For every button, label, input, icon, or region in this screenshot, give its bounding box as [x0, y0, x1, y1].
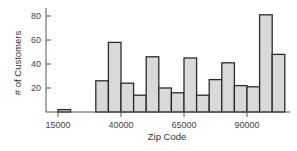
x-axis-ticks: 15000400006500090000: [45, 112, 259, 130]
histogram-bar: [108, 42, 121, 112]
histogram-bar: [234, 86, 247, 112]
histogram-bar: [197, 95, 210, 112]
y-tick-label: 40: [31, 59, 41, 69]
histogram-bar: [134, 95, 147, 112]
histogram-bar: [184, 58, 197, 112]
y-axis-title: # of Customers: [12, 31, 23, 96]
histogram-bar: [222, 63, 235, 112]
x-axis-title: Zip Code: [148, 131, 187, 142]
histogram-bar: [146, 57, 159, 112]
y-tick-label: 80: [31, 11, 41, 21]
bars-group: [58, 15, 285, 112]
x-tick-label: 15000: [45, 120, 70, 130]
y-tick-label: 20: [31, 83, 41, 93]
x-tick-label: 65000: [171, 120, 196, 130]
histogram-bar: [96, 81, 109, 112]
histogram-bar: [260, 15, 273, 112]
x-tick-label: 40000: [108, 120, 133, 130]
histogram-bar: [121, 83, 134, 112]
histogram-bar: [159, 88, 172, 112]
y-axis-ticks: 20406080: [31, 11, 51, 93]
histogram-bar: [272, 54, 285, 112]
histogram-bar: [171, 93, 184, 112]
x-tick-label: 90000: [234, 120, 259, 130]
histogram-bar: [247, 87, 260, 112]
histogram-bar: [209, 80, 222, 112]
y-tick-label: 60: [31, 35, 41, 45]
histogram-chart: 20406080 15000400006500090000 Zip Code #…: [0, 0, 297, 151]
